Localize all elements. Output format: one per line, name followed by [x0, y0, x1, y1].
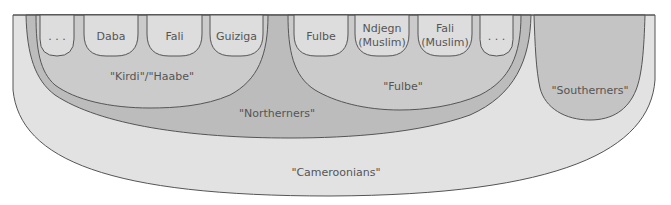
kirdi-member-pill-label: . . . [48, 30, 65, 43]
cameroonians-label: "Cameroonians" [291, 166, 380, 179]
fulbe-member-pill-sublabel: (Muslim) [358, 36, 406, 49]
fulbe-member-pill-sublabel: (Muslim) [421, 36, 469, 49]
kirdi-member-pill-label: Fali [165, 30, 183, 43]
fulbe-member-pill-label: Fulbe [306, 30, 336, 43]
northerners-label: "Northerners" [239, 107, 315, 120]
fulbe-member-pill-label: Fali [436, 22, 454, 35]
kirdi-haabe-label: "Kirdi"/"Haabe" [110, 70, 194, 83]
fulbe-member-pill-label: . . . [488, 30, 505, 43]
kirdi-member-pill-label: Daba [97, 30, 126, 43]
kirdi-member-pill-label: Guiziga [216, 30, 257, 43]
southerners-group-shape [534, 15, 645, 120]
southerners-label: "Southerners" [551, 84, 628, 97]
fulbe-group-label: "Fulbe" [383, 80, 423, 93]
ethnic-identity-diagram: . . .DabaFaliGuiziga FulbeNdjegn(Muslim)… [0, 0, 671, 205]
fulbe-member-pill-label: Ndjegn [363, 22, 402, 35]
